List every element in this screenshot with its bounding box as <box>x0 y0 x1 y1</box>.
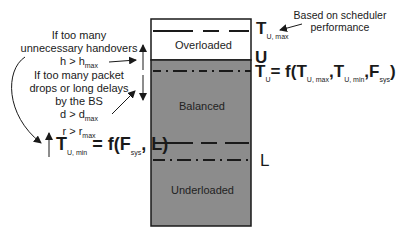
handover-note: If too many unnecessary handovers h > hm… <box>20 29 138 72</box>
t-u-min-formula: TU, min = f(Fsys, L) <box>56 134 168 156</box>
t-u-formula: TU= f(TU, max,TU, min,Fsys) <box>255 62 396 83</box>
packet-note: If too many packet drops or long delays … <box>24 69 134 142</box>
t-u-max-label: TU, max <box>256 19 289 40</box>
l-label: L <box>260 151 269 171</box>
overloaded-label: Overloaded <box>175 39 232 51</box>
balanced-label: Balanced <box>179 100 225 112</box>
underloaded-label: Underloaded <box>171 184 234 196</box>
scheduler-note: Based on scheduler performance <box>290 9 390 33</box>
